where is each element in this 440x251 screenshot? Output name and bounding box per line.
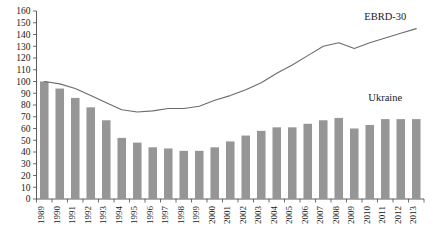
chart-container: 0102030405060708090100110120130140150160… (0, 0, 440, 251)
x-tick-label: 1995 (129, 206, 139, 225)
x-tick-label: 2013 (408, 206, 418, 225)
bar-1989 (40, 82, 49, 200)
bar-1998 (179, 151, 188, 199)
x-tick-label: 2011 (377, 206, 387, 224)
line-series-ebrd-30 (44, 29, 416, 112)
y-tick-label: 40 (21, 147, 31, 157)
x-tick-label: 2007 (315, 206, 325, 225)
y-tick-label: 80 (21, 100, 31, 110)
x-tick-label: 2005 (284, 206, 294, 225)
x-tick-label: 1999 (191, 206, 201, 225)
x-tick-label: 1996 (145, 206, 155, 225)
x-tick-label: 2008 (331, 206, 341, 225)
y-tick-label: 110 (17, 65, 31, 75)
y-tick-label: 150 (16, 18, 31, 28)
x-tick-label: 2010 (362, 206, 372, 225)
y-tick-label: 130 (16, 42, 31, 52)
bar-2007 (319, 120, 328, 199)
index-chart: 0102030405060708090100110120130140150160… (0, 0, 440, 251)
bar-2011 (381, 119, 390, 199)
bar-1997 (164, 148, 173, 199)
annotation-group: EBRD-30Ukraine (364, 11, 406, 103)
bar-1996 (148, 147, 157, 199)
x-tick-label: 2006 (300, 206, 310, 225)
ebrd-30-label: EBRD-30 (364, 11, 406, 22)
bar-2010 (365, 125, 374, 199)
y-tick-label: 50 (21, 136, 31, 146)
bar-series-ukraine (40, 82, 421, 200)
y-tick-label: 0 (26, 194, 31, 204)
x-tick-label: 2001 (222, 206, 232, 224)
bar-1990 (55, 89, 64, 199)
y-tick-label: 140 (16, 30, 31, 40)
bar-2004 (272, 127, 281, 199)
y-tick-label: 30 (21, 159, 31, 169)
y-tick-label: 160 (16, 6, 31, 16)
x-tick-label: 1998 (176, 206, 186, 225)
ukraine-label: Ukraine (368, 92, 402, 103)
x-tick-label: 2004 (269, 206, 279, 225)
x-tick-label: 1993 (98, 206, 108, 225)
x-tick-label: 2003 (253, 206, 263, 225)
y-tick-label: 90 (21, 89, 31, 99)
bar-2005 (288, 127, 297, 199)
bar-2009 (350, 129, 359, 200)
x-tick-label: 1992 (83, 206, 93, 224)
bar-1999 (195, 151, 204, 199)
bar-2013 (412, 119, 421, 199)
x-tick-label: 2009 (346, 206, 356, 225)
bar-2001 (226, 141, 235, 199)
bar-2003 (257, 131, 266, 199)
x-tick-label: 2012 (393, 206, 403, 224)
bar-1992 (86, 107, 95, 199)
y-tick-label: 70 (21, 112, 31, 122)
y-tick-label: 100 (16, 77, 31, 87)
bar-1994 (117, 138, 126, 199)
x-tick-label: 1991 (67, 206, 77, 224)
x-tick-label: 1994 (114, 206, 124, 225)
x-tick-label: 1997 (160, 206, 170, 225)
y-tick-label: 120 (16, 53, 31, 63)
y-tick-label: 10 (21, 183, 31, 193)
bar-1995 (133, 143, 142, 199)
x-tick-label: 1989 (36, 206, 46, 225)
bar-2008 (334, 118, 343, 199)
bar-1993 (102, 120, 111, 199)
bar-1991 (71, 98, 80, 199)
bar-2002 (241, 136, 250, 199)
x-tick-group: 1989199019911992199319941995199619971998… (36, 199, 424, 224)
y-tick-label: 60 (21, 124, 31, 134)
x-tick-label: 1990 (52, 206, 62, 225)
bar-2012 (396, 119, 405, 199)
x-tick-label: 2002 (238, 206, 248, 224)
y-tick-label: 20 (21, 171, 31, 181)
bar-2006 (303, 124, 312, 199)
bar-2000 (210, 147, 219, 199)
x-tick-label: 2000 (207, 206, 217, 225)
